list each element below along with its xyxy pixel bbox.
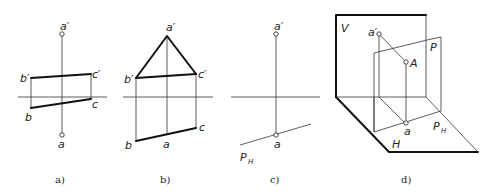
edge-b-prime-c-prime [136, 74, 196, 78]
label-c-prime: c′ [92, 68, 101, 81]
point-a-prime [377, 32, 381, 36]
panel-a: a′ b′ c′ c b a a) [18, 20, 107, 185]
label-c: c [92, 98, 98, 111]
projection-diagram: a′ b′ c′ c b a a) a′ b′ c′ c b a b) a′ a… [0, 0, 491, 194]
label-b-prime: b′ [20, 72, 30, 85]
label-H: H [392, 138, 400, 151]
label-b: b [25, 111, 32, 124]
label-A: A [409, 57, 418, 70]
panel-d: V a′ P A a P H H d) [336, 15, 478, 185]
edge-b-c [31, 99, 91, 108]
label-a-prime: a′ [368, 26, 378, 39]
label-b-prime: b′ [124, 73, 134, 86]
label-P: P [430, 41, 437, 54]
label-a: a [404, 125, 411, 138]
label-p-trace-subscript: H [441, 127, 447, 135]
edge-b-prime-c-prime [31, 74, 91, 78]
label-a-prime: a′ [166, 21, 176, 34]
caption-d: d) [401, 174, 411, 185]
label-p-trace: P [240, 151, 247, 164]
caption-b: b) [160, 174, 170, 185]
edges-a-prime [136, 36, 196, 78]
panel-c: a′ a P H c) [231, 20, 320, 185]
label-p-trace: P [433, 120, 440, 133]
label-c-prime: c′ [198, 68, 207, 81]
label-V: V [341, 22, 350, 35]
label-a-prime: a′ [60, 20, 70, 33]
label-c: c [199, 121, 205, 134]
label-a: a [163, 138, 170, 151]
point-a [274, 133, 278, 137]
label-a: a [58, 138, 65, 151]
label-a-prime: a′ [274, 20, 284, 33]
point-a [60, 133, 64, 137]
line-a-prime-A [379, 34, 406, 62]
label-b: b [125, 139, 132, 152]
caption-a: a) [55, 174, 65, 185]
point-A [404, 60, 408, 64]
v-plane-edges [336, 15, 426, 97]
panel-b: a′ b′ c′ c b a b) [123, 21, 213, 185]
caption-c: c) [270, 174, 280, 185]
label-a: a [274, 138, 281, 151]
label-p-trace-subscript: H [248, 158, 254, 166]
projector-to-a [379, 97, 405, 123]
